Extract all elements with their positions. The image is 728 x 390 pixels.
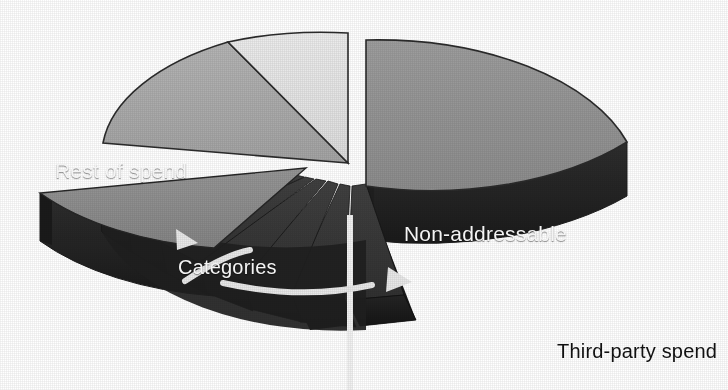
label-categories: Categories xyxy=(178,256,277,279)
pie-chart-svg xyxy=(0,0,728,390)
label-third-party-spend: Third-party spend xyxy=(557,340,717,363)
label-non-addressable: Non-addressable xyxy=(404,222,567,246)
pie-chart-figure xyxy=(0,0,728,390)
label-rest-of-spend: Rest of spend xyxy=(55,159,187,183)
